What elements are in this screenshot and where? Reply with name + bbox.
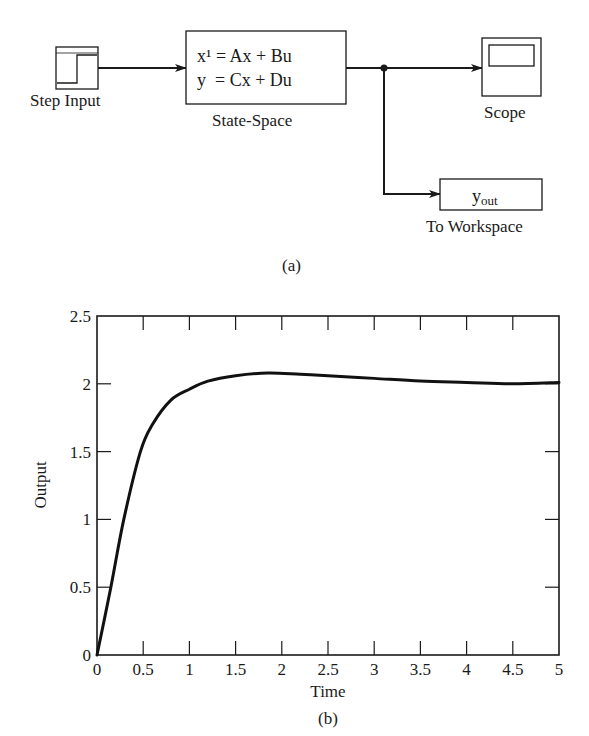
y-tick-label: 0.5 — [70, 578, 91, 597]
signal-line-branch-to-workspace — [384, 68, 440, 194]
x-tick-label: 1 — [185, 660, 194, 679]
y-tick-label: 0 — [83, 646, 92, 665]
plot-caption: (b) — [318, 709, 338, 728]
plot-frame — [97, 316, 559, 655]
y-tick-label: 1.5 — [70, 443, 91, 462]
x-tick-label: 0.5 — [133, 660, 154, 679]
x-tick-label: 2 — [278, 660, 287, 679]
x-tick-label: 3.5 — [410, 660, 431, 679]
y-axis-label: Output — [31, 461, 50, 509]
step-input-label: Step Input — [30, 91, 101, 110]
y-tick-label: 2 — [83, 375, 92, 394]
x-tick-label: 4 — [462, 660, 471, 679]
x-tick-label: 1.5 — [225, 660, 246, 679]
state-space-label: State-Space — [212, 111, 292, 130]
x-tick-label: 2.5 — [317, 660, 338, 679]
block-diagram: Step Input x¹ = Ax + Bu y = Cx + Du Stat… — [30, 31, 542, 275]
x-tick-label: 4.5 — [502, 660, 523, 679]
diagram-caption: (a) — [282, 256, 301, 275]
state-space-block[interactable]: x¹ = Ax + Bu y = Cx + Du — [186, 31, 346, 104]
x-axis-label: Time — [310, 682, 345, 701]
response-plot: 00.511.522.533.544.55 00.511.522.5 Time … — [31, 307, 563, 728]
x-tick-label: 3 — [370, 660, 379, 679]
scope-screen-icon — [489, 45, 534, 66]
to-workspace-block[interactable]: yout — [440, 179, 542, 210]
y-tick-label: 2.5 — [70, 307, 91, 326]
to-workspace-label: To Workspace — [426, 217, 523, 236]
x-axis-ticks: 00.511.522.533.544.55 — [93, 316, 564, 679]
x-tick-label: 5 — [555, 660, 564, 679]
y-tick-label: 1 — [83, 510, 92, 529]
scope-block[interactable] — [482, 38, 541, 96]
output-equation: y = Cx + Du — [197, 70, 292, 90]
y-axis-ticks: 00.511.522.5 — [70, 307, 559, 665]
figure: Step Input x¹ = Ax + Bu y = Cx + Du Stat… — [0, 0, 589, 736]
scope-label: Scope — [484, 103, 526, 122]
state-equation: x¹ = Ax + Bu — [197, 46, 292, 66]
x-tick-label: 0 — [93, 660, 102, 679]
output-curve — [97, 373, 559, 655]
step-input-block[interactable] — [56, 47, 98, 89]
